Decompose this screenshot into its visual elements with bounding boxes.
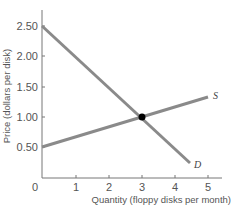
x-tick-label: 3	[139, 181, 145, 193]
supply-label: S	[213, 90, 218, 101]
equilibrium-point	[139, 114, 146, 121]
supply-demand-chart: 0.50 1.00 1.50 2.00 2.50 0 1 2 3 4 5 Qua…	[0, 0, 231, 206]
x-axis-title: Quantity (floppy disks per month)	[92, 194, 231, 205]
x-tick-label: 5	[205, 181, 211, 193]
y-tick-label: 0.50	[17, 141, 38, 153]
y-tick-label: 2.50	[17, 20, 38, 32]
demand-label: D	[193, 159, 202, 170]
x-tick-label: 2	[106, 181, 112, 193]
y-tick-label: 1.50	[17, 81, 38, 93]
x-tick-label: 4	[172, 181, 178, 193]
y-tick-label: 1.00	[17, 111, 38, 123]
origin-label: 0	[32, 181, 38, 193]
x-tick-label: 1	[73, 181, 79, 193]
y-axis-title: Price (dollars per disk)	[1, 49, 12, 144]
demand-curve	[42, 26, 190, 163]
y-tick-label: 2.00	[17, 50, 38, 62]
